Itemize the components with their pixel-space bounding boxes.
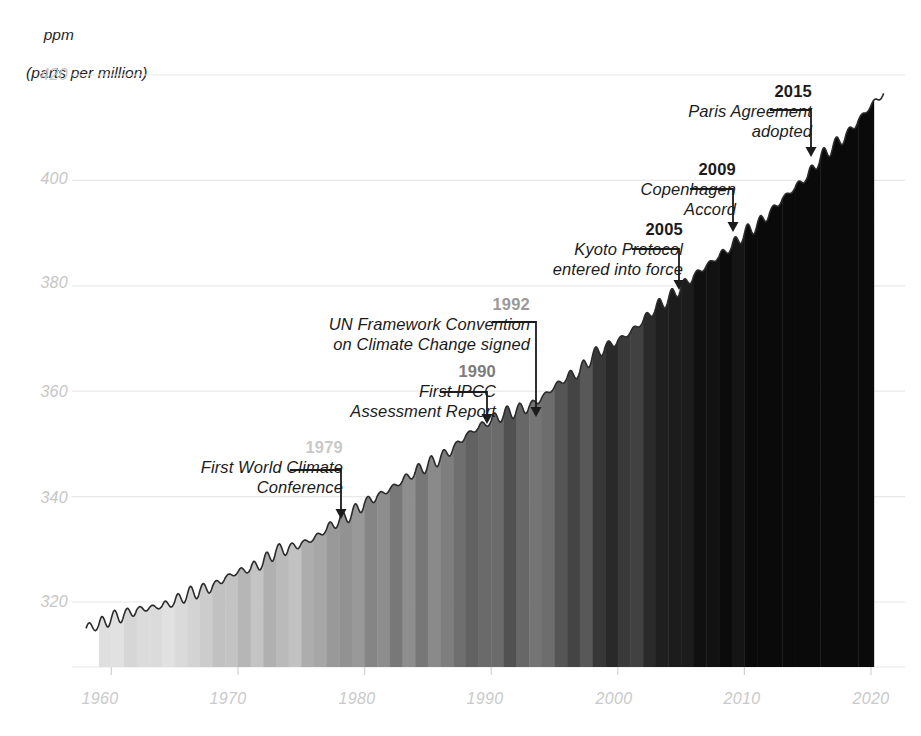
annotation-1979-year: 1979 [201, 437, 343, 457]
annotation-1992: 1992 UN Framework Convention on Climate … [329, 294, 530, 354]
annotation-2009: 2009 Copenhagen Accord [640, 159, 736, 219]
annotation-1992-label: UN Framework Convention on Climate Chang… [329, 314, 530, 354]
x-tick-marks [111, 667, 871, 675]
annotation-2009-label: Copenhagen Accord [640, 179, 736, 219]
co2-ppm-stripes-chart: ppm (parts per million) 420 400 380 360 … [0, 0, 921, 736]
annotation-2005-year: 2005 [553, 219, 683, 239]
annotation-1992-year: 1992 [329, 294, 530, 314]
annotation-2005: 2005 Kyoto Protocol entered into force [553, 219, 683, 279]
annotation-1979: 1979 First World Climate Conference [201, 437, 343, 497]
annotation-1979-label: First World Climate Conference [201, 457, 343, 497]
annotation-1990-label: First IPCC Assessment Report [350, 381, 496, 421]
annotation-2009-year: 2009 [640, 159, 736, 179]
annotation-1990: 1990 First IPCC Assessment Report [350, 361, 496, 421]
annotation-2015-label: Paris Agreement adopted [688, 101, 812, 141]
annotation-2015: 2015 Paris Agreement adopted [688, 81, 812, 141]
annotation-2015-year: 2015 [688, 81, 812, 101]
annotation-2005-label: Kyoto Protocol entered into force [553, 239, 683, 279]
annotation-1990-year: 1990 [350, 361, 496, 381]
